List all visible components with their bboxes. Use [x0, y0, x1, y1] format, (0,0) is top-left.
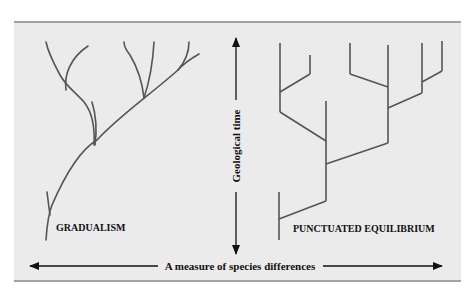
evolution-models-diagram: Geological time A measure of species dif…: [0, 0, 471, 298]
species-differences-label: A measure of species differences: [165, 260, 316, 272]
gradualism-tree: [46, 42, 199, 240]
gradualism-label: GRADUALISM: [56, 222, 126, 233]
punctuated-equilibrium-tree: [279, 41, 442, 240]
geological-time-label: Geological time: [230, 109, 242, 182]
punctuated-equilibrium-label: PUNCTUATED EQUILIBRIUM: [293, 223, 435, 234]
